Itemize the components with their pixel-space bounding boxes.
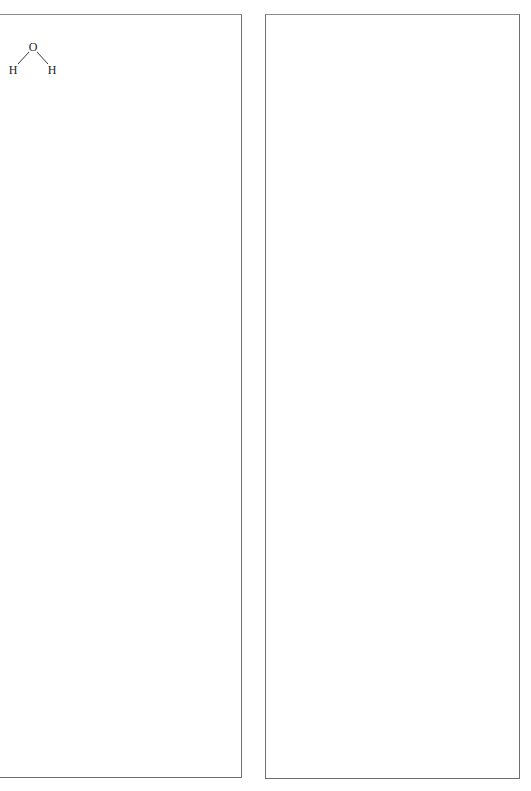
- right-canvas-panel[interactable]: [265, 14, 520, 779]
- bond-o-h-left: [18, 52, 29, 64]
- water-molecule-structure[interactable]: O H H: [0, 0, 80, 90]
- atom-oxygen[interactable]: O: [29, 41, 38, 53]
- left-canvas-panel[interactable]: [0, 14, 242, 778]
- atom-hydrogen-left[interactable]: H: [9, 64, 18, 76]
- bond-o-h-right: [37, 52, 48, 64]
- atom-hydrogen-right[interactable]: H: [48, 64, 57, 76]
